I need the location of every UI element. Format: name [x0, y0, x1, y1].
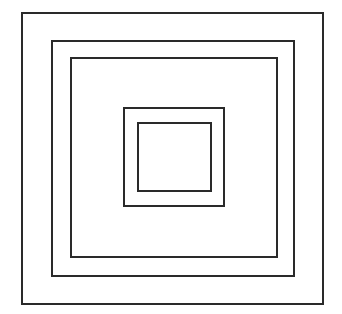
square-5-inner	[137, 122, 212, 192]
